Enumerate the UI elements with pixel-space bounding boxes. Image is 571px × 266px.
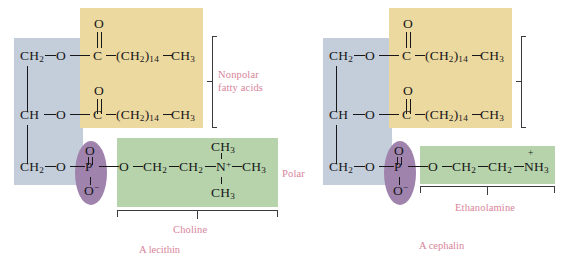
right-ethanolamine-label: Ethanolamine <box>455 202 515 213</box>
left-choline-ch2-a: CH2 <box>143 159 167 175</box>
left-bond-ch2b-n <box>205 166 216 167</box>
left-phosphate-bottom-oxygen: O− <box>84 183 99 199</box>
left-fa2-terminal-methyl: CH3 <box>171 107 195 123</box>
right-fa2-carbonyl-oxygen: O <box>403 83 413 99</box>
left-bond-c-chain-2 <box>106 114 116 115</box>
left-ester-oxygen-2: O <box>56 107 66 123</box>
left-fa2-carbonyl-carbon: C <box>93 107 102 123</box>
right-fa2-carbonyl-carbon: C <box>402 107 411 123</box>
left-fa1-carbonyl-oxygen: O <box>94 16 104 32</box>
left-bond-n-down <box>221 177 222 184</box>
left-bond-o1-c <box>70 55 90 56</box>
right-ester-oxygen-3: O <box>365 159 375 175</box>
left-glycerol-c3: CH2 <box>20 159 44 175</box>
left-bond-c3-o3 <box>45 166 56 167</box>
left-structure-caption: A lecithin <box>139 244 180 255</box>
left-fa1-double-bond-a <box>97 32 98 48</box>
left-choline-ester-oxygen: O <box>119 159 129 175</box>
right-glycerol-bond-c1-c2 <box>336 66 337 112</box>
right-bond-o1-c <box>379 55 399 56</box>
left-choline-nitrogen: N+ <box>216 159 231 175</box>
left-fa1-carbonyl-carbon: C <box>93 48 102 64</box>
left-phosphorus: P <box>85 159 93 175</box>
left-phosphate-top-oxygen: O <box>85 143 95 159</box>
right-bond-c-chain-1 <box>415 55 425 56</box>
left-bond-o3-p <box>70 166 85 167</box>
left-ester-oxygen-1: O <box>56 48 66 64</box>
right-fa1-terminal-methyl: CH3 <box>480 48 504 64</box>
left-choline-bracket <box>117 210 278 220</box>
left-glycerol-c1: CH2 <box>20 48 44 64</box>
right-phosphate-bottom-oxygen: O− <box>393 183 408 199</box>
left-fa2-chain: (CH2)14 <box>116 107 159 123</box>
right-fa2-chain: (CH2)14 <box>425 107 468 123</box>
right-bond-c2-o2 <box>353 114 365 115</box>
left-glycerol-bond-c1-c2 <box>27 66 28 112</box>
left-nonpolar-label-line1: Nonpolar <box>218 69 259 80</box>
right-fa1-carbonyl-oxygen: O <box>403 16 413 32</box>
right-bond-o3-p <box>379 166 394 167</box>
left-bond-c2-o2 <box>44 114 56 115</box>
left-choline-methyl-right: CH3 <box>242 159 266 175</box>
left-fa2-carbonyl-oxygen: O <box>94 83 104 99</box>
right-fa1-double-bond-b <box>410 32 411 48</box>
right-ethanolamine-ch2-b: CH2 <box>488 159 512 175</box>
right-ethanolamine-ch2-a: CH2 <box>452 159 476 175</box>
left-glycerol-c2: CH <box>20 107 39 123</box>
right-phosphorus: P <box>394 159 402 175</box>
left-bond-c1-o1 <box>45 55 56 56</box>
right-bond-p-o4 <box>408 166 428 167</box>
left-ester-oxygen-3: O <box>56 159 66 175</box>
phospholipid-diagram: O CH2 O C (CH2)14 CH3 O CH O C (CH2)14 C… <box>0 0 571 266</box>
right-bond-c3-o3 <box>354 166 365 167</box>
right-ethanolamine-ammonium: NH3 <box>524 159 549 175</box>
left-choline-ch2-b: CH2 <box>179 159 203 175</box>
left-bond-n-methyl-right <box>232 166 242 167</box>
left-bond-o2-c <box>70 114 90 115</box>
right-bond-c-chain-2 <box>415 114 425 115</box>
left-fa1-chain: (CH2)14 <box>116 48 159 64</box>
right-ester-oxygen-2: O <box>365 107 375 123</box>
left-choline-methyl-bottom: CH3 <box>211 185 235 201</box>
left-bond-o4-ch2a <box>133 166 143 167</box>
right-fa1-carbonyl-carbon: C <box>402 48 411 64</box>
right-phosphate-top-oxygen: O <box>394 143 404 159</box>
left-nonpolar-bracket <box>207 36 216 128</box>
right-glycerol-c1: CH2 <box>329 48 353 64</box>
right-bond-ch2a-ch2b <box>478 166 488 167</box>
left-bond-c-chain-1 <box>106 55 116 56</box>
left-fa1-terminal-methyl: CH3 <box>171 48 195 64</box>
right-fa2-terminal-methyl: CH3 <box>480 107 504 123</box>
right-bond-ch2b-nh3 <box>514 166 524 167</box>
left-choline-label: Choline <box>173 224 207 235</box>
left-bond-ch2a-ch2b <box>169 166 179 167</box>
right-ammonium-charge: + <box>528 148 534 158</box>
right-glycerol-c2: CH <box>329 107 348 123</box>
left-nonpolar-label-line2: fatty acids <box>218 82 263 93</box>
left-fa1-double-bond-b <box>101 32 102 48</box>
left-polar-label: Polar <box>282 168 305 179</box>
right-structure-caption: A cephalin <box>419 240 464 251</box>
right-fa1-double-bond-a <box>406 32 407 48</box>
right-fa1-chain: (CH2)14 <box>425 48 468 64</box>
right-ester-oxygen-1: O <box>365 48 375 64</box>
right-bond-o4-ch2a <box>442 166 452 167</box>
right-bond-c1-o1 <box>354 55 365 56</box>
right-bond-o2-c <box>379 114 399 115</box>
left-bond-p-o4 <box>99 166 119 167</box>
right-ethanolamine-ester-oxygen: O <box>428 159 438 175</box>
right-nonpolar-bracket <box>516 36 525 128</box>
right-glycerol-c3: CH2 <box>329 159 353 175</box>
left-choline-methyl-top: CH3 <box>211 139 235 155</box>
right-ethanolamine-bracket <box>420 186 555 196</box>
